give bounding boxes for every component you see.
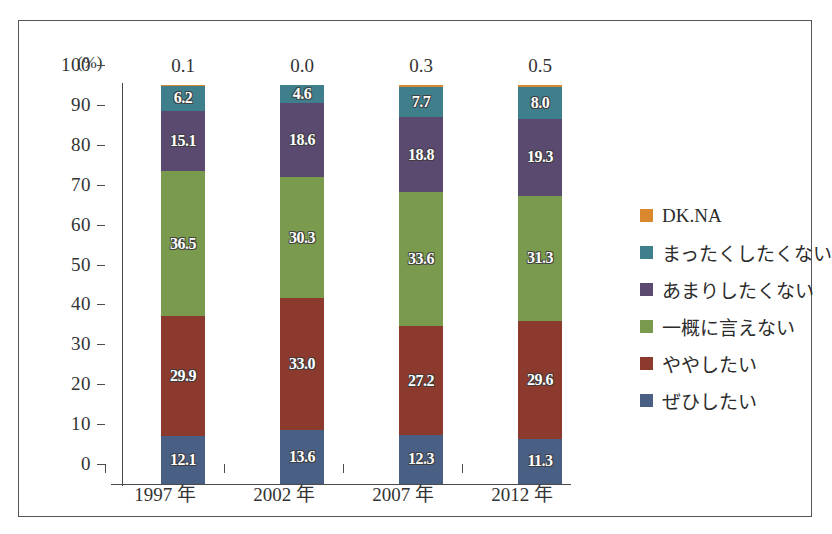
y-axis-tick-label: 30 [47, 334, 91, 353]
legend-swatch-icon [640, 357, 653, 370]
bar-segment[interactable]: 6.2 [161, 86, 205, 111]
bar-top-value-label: 0.0 [268, 55, 336, 77]
bar-segment-value-label: 7.7 [412, 93, 431, 111]
bar-stack: 11.329.631.319.38.0 [518, 85, 562, 484]
bar-segment-value-label: 19.3 [527, 148, 553, 166]
y-axis-tick-label: 100 [47, 55, 91, 74]
legend-item-label: ややしたい [662, 350, 757, 377]
y-axis-tick-label: 40 [47, 294, 91, 313]
plot-area: 12.129.936.515.16.20.113.633.030.318.64.… [122, 85, 559, 484]
bar-top-value-label: 0.5 [506, 55, 574, 77]
y-axis-tick [97, 105, 105, 106]
legend-item[interactable]: あまりしたくない [640, 271, 832, 308]
x-axis-tick [462, 464, 463, 473]
bar-segment-value-label: 13.6 [289, 448, 315, 466]
bar-segment-value-label: 12.1 [170, 451, 196, 469]
legend-item-label: 一概に言えない [662, 313, 795, 340]
bar-segment[interactable]: 36.5 [161, 171, 205, 317]
bar-segment-value-label: 33.0 [289, 355, 315, 373]
bar-stack: 13.633.030.318.64.6 [280, 85, 324, 484]
bar-segment[interactable]: 18.6 [280, 103, 324, 177]
legend-swatch-icon [640, 394, 653, 407]
y-axis-tick-label: 0 [47, 454, 91, 473]
y-axis-tick [97, 384, 105, 385]
bar-segment[interactable]: 27.2 [399, 326, 443, 435]
bar-segment-value-label: 18.8 [408, 146, 434, 164]
y-axis-tick-label: 50 [47, 255, 91, 274]
bar-segment[interactable]: 33.6 [399, 192, 443, 326]
bar-segment[interactable]: 12.3 [399, 435, 443, 484]
bar-segment[interactable]: 7.7 [399, 87, 443, 118]
bar-segment-value-label: 11.3 [527, 452, 552, 470]
x-axis-tick [105, 464, 106, 473]
bar-segment[interactable]: 4.6 [280, 85, 324, 103]
y-axis-tick [97, 265, 105, 266]
legend-item-label: DK.NA [662, 205, 722, 227]
legend-swatch-icon [640, 246, 653, 259]
x-axis-tick [343, 464, 344, 473]
y-axis-tick [97, 464, 105, 465]
bar-segment-value-label: 6.2 [174, 89, 193, 107]
bar-segment[interactable]: 29.6 [518, 321, 562, 439]
bar-segment[interactable]: 33.0 [280, 298, 324, 430]
legend-item-label: まったくしたくない [662, 239, 832, 266]
legend-swatch-icon [640, 283, 653, 296]
legend-item[interactable]: まったくしたくない [640, 234, 832, 271]
bar-segment[interactable]: 12.1 [161, 436, 205, 484]
legend-item[interactable]: ぜひしたい [640, 382, 832, 419]
y-axis-tick [97, 185, 105, 186]
bar-segment-value-label: 15.1 [170, 132, 196, 150]
bar-segment[interactable] [518, 85, 562, 87]
bar-segment-value-label: 30.3 [289, 229, 315, 247]
legend-swatch-icon [640, 320, 653, 333]
legend-item[interactable]: ややしたい [640, 345, 832, 382]
y-axis-tick [97, 304, 105, 305]
legend-swatch-icon [640, 209, 653, 222]
bar-segment[interactable]: 31.3 [518, 196, 562, 321]
bar-segment[interactable]: 8.0 [518, 87, 562, 119]
bar-segment[interactable]: 29.9 [161, 316, 205, 435]
y-axis-tick [97, 424, 105, 425]
bar-stack: 12.129.936.515.16.2 [161, 85, 205, 484]
y-axis-tick-label: 90 [47, 95, 91, 114]
bar-segment-value-label: 12.3 [408, 450, 434, 468]
bar-segment[interactable]: 11.3 [518, 439, 562, 484]
bar-segment-value-label: 31.3 [527, 249, 553, 267]
bar-column[interactable]: 12.327.233.618.87.70.3 [399, 85, 443, 484]
bar-segment-value-label: 18.6 [289, 131, 315, 149]
bar-segment[interactable]: 19.3 [518, 119, 562, 196]
legend-item-label: ぜひしたい [662, 387, 757, 414]
bar-segment-value-label: 8.0 [531, 94, 550, 112]
bar-segment[interactable] [399, 85, 443, 86]
bar-segment[interactable]: 30.3 [280, 177, 324, 298]
bar-column[interactable]: 11.329.631.319.38.00.5 [518, 85, 562, 484]
bar-top-value-label: 0.1 [149, 55, 217, 77]
bar-segment-value-label: 33.6 [408, 250, 434, 268]
y-axis-tick-label: 60 [47, 215, 91, 234]
x-axis-category-label: 2002 年 [224, 479, 344, 506]
x-axis-category-label: 2007 年 [343, 479, 463, 506]
y-axis-tick [97, 344, 105, 345]
bar-top-value-label: 0.3 [387, 55, 455, 77]
bar-segment[interactable]: 15.1 [161, 111, 205, 171]
y-axis-tick [97, 145, 105, 146]
x-axis-category-label: 2012 年 [462, 479, 582, 506]
bar-segment[interactable]: 18.8 [399, 117, 443, 192]
bar-segment-value-label: 27.2 [408, 372, 434, 390]
y-axis-tick-label: 70 [47, 175, 91, 194]
legend-item[interactable]: DK.NA [640, 197, 832, 234]
bar-column[interactable]: 13.633.030.318.64.60.0 [280, 85, 324, 484]
legend-item[interactable]: 一概に言えない [640, 308, 832, 345]
y-axis-tick-label: 20 [47, 374, 91, 393]
x-axis-tick [224, 464, 225, 473]
legend-item-label: あまりしたくない [662, 276, 814, 303]
y-axis-tick-label: 80 [47, 135, 91, 154]
y-axis-tick [97, 65, 105, 66]
bar-segment[interactable]: 13.6 [280, 430, 324, 484]
bar-column[interactable]: 12.129.936.515.16.20.1 [161, 85, 205, 484]
bar-segment-value-label: 4.6 [293, 85, 312, 103]
bar-segment-value-label: 29.6 [527, 371, 553, 389]
bar-segment-value-label: 36.5 [170, 235, 196, 253]
chart-legend: DK.NAまったくしたくないあまりしたくない一概に言えないややしたいぜひしたい [640, 197, 832, 419]
y-axis-tick [97, 225, 105, 226]
